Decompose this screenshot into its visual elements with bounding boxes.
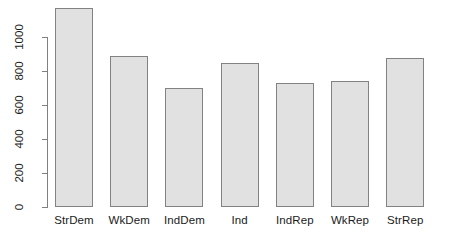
bar-inddem — [165, 88, 203, 207]
bar-strdem — [55, 8, 93, 207]
bar-strrep — [386, 58, 424, 207]
x-axis-label-wkdem: WkDem — [98, 214, 160, 226]
x-axis-label-strdem: StrDem — [43, 214, 105, 226]
bar-wkrep — [331, 81, 369, 207]
bar-indrep — [276, 83, 314, 207]
x-axis-label-inddem: IndDem — [153, 214, 215, 226]
x-axis-label-indrep: IndRep — [264, 214, 326, 226]
bar-ind — [221, 63, 259, 207]
x-axis-label-ind: Ind — [209, 214, 271, 226]
bar-chart: 02004006008001000 StrDemWkDemIndDemIndIn… — [0, 0, 467, 248]
bar-wkdem — [110, 56, 148, 207]
plot-area: StrDemWkDemIndDemIndIndRepWkRepStrRep — [0, 0, 467, 248]
x-axis-label-strrep: StrRep — [374, 214, 436, 226]
x-axis-label-wkrep: WkRep — [319, 214, 381, 226]
